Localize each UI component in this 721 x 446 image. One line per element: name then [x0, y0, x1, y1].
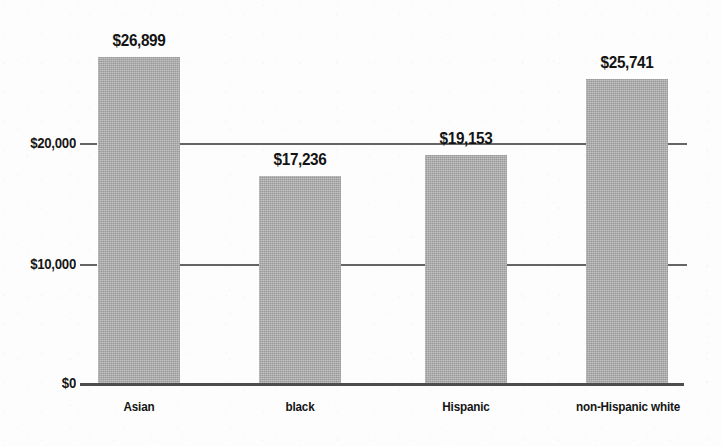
ytick-label-20000: $20,000 — [9, 134, 76, 151]
tick-stub-10000 — [80, 264, 97, 266]
plot-area: $20,000 $10,000 $0 $26,899 $17,236 $19,1… — [0, 0, 721, 446]
ytick-label-0: $0 — [9, 374, 76, 391]
bar-non-hispanic-white — [586, 79, 668, 383]
bar-hispanic — [425, 155, 507, 383]
ytick-label-10000: $10,000 — [9, 255, 76, 272]
value-label-non-hispanic-white: $25,741 — [573, 53, 681, 73]
bar-chart: $20,000 $10,000 $0 $26,899 $17,236 $19,1… — [0, 0, 721, 446]
bar-asian — [98, 57, 180, 383]
category-label-non-hispanic-white: non-Hispanic white — [558, 399, 698, 414]
value-label-asian: $26,899 — [85, 31, 193, 51]
tick-stub-20000 — [80, 143, 97, 145]
category-label-hispanic: Hispanic — [403, 399, 529, 414]
value-label-hispanic: $19,153 — [412, 129, 520, 149]
value-label-black: $17,236 — [246, 150, 354, 170]
bar-black — [259, 176, 341, 383]
axis-baseline — [80, 383, 684, 386]
category-label-asian: Asian — [76, 399, 202, 414]
category-label-black: black — [237, 399, 363, 414]
